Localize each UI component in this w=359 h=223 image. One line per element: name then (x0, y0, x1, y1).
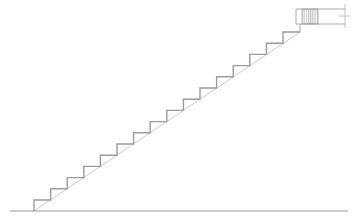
stair-section-drawing (0, 0, 359, 223)
beam-section-hatch (302, 9, 318, 24)
drawing-svg (0, 0, 359, 223)
